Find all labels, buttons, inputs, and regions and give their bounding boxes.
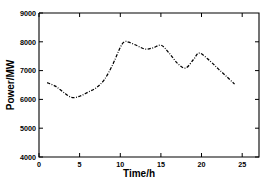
y-axis-ticks <box>39 13 259 157</box>
y-tick-label-8000: 8000 <box>20 38 36 47</box>
x-tick-label-25: 25 <box>238 160 246 169</box>
y-tick-label-9000: 9000 <box>20 9 36 18</box>
x-tick-label-0: 0 <box>37 160 41 169</box>
power-load-line-chart: 9000 8000 7000 6000 5000 4000 0 5 10 15 … <box>0 0 270 181</box>
x-tick-label-15: 15 <box>157 160 165 169</box>
x-axis-ticks <box>39 13 242 157</box>
y-tick-label-4000: 4000 <box>20 153 36 162</box>
plot-frame <box>39 13 259 157</box>
x-tick-label-5: 5 <box>78 160 82 169</box>
chart-figure: 9000 8000 7000 6000 5000 4000 0 5 10 15 … <box>0 0 270 181</box>
y-tick-label-5000: 5000 <box>20 124 36 133</box>
x-axis-title: Time/h <box>123 168 155 179</box>
y-axis-tick-labels: 9000 8000 7000 6000 5000 4000 <box>20 9 36 162</box>
y-tick-label-7000: 7000 <box>20 66 36 75</box>
power-load-curve <box>47 41 234 97</box>
y-tick-label-6000: 6000 <box>20 95 36 104</box>
x-tick-label-20: 20 <box>198 160 206 169</box>
y-axis-title: Power/MW <box>5 59 16 110</box>
